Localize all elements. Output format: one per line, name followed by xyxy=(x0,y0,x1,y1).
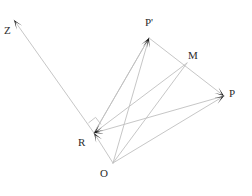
segments-layer xyxy=(14,20,224,163)
point-label-m: M xyxy=(188,50,198,61)
vector-diagram-canvas xyxy=(0,0,252,196)
segment-O-to-M xyxy=(113,63,187,163)
arrowhead-O-to-P xyxy=(214,96,224,104)
arrowhead-R-to-Z xyxy=(14,20,22,30)
segment-Pp-to-P xyxy=(149,38,224,96)
segment-M-to-R xyxy=(94,63,187,133)
point-label-p: P xyxy=(229,88,235,99)
segment-R-to-Z xyxy=(14,20,94,133)
point-label-pp: P' xyxy=(145,17,153,28)
segment-O-to-R xyxy=(94,133,113,163)
point-label-z: Z xyxy=(4,25,11,36)
arrowhead-R-to-Pp xyxy=(141,38,149,48)
arrowheads-layer xyxy=(14,20,224,143)
point-label-o: O xyxy=(100,168,108,179)
geometry-diagram: ZP'MPRO xyxy=(0,0,252,196)
arrowhead-O-to-R xyxy=(94,133,102,143)
point-label-r: R xyxy=(78,137,85,148)
segment-Pp-to-R-outer xyxy=(94,38,149,133)
